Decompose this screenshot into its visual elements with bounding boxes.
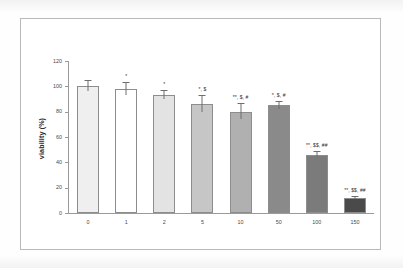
y-axis-tick-label: 40 (56, 158, 62, 166)
y-axis-tick: 120 (36, 61, 68, 62)
significance-annotation: *, $, # (272, 92, 286, 98)
figure-root: viability (%) 020406080100120 ***, $**, … (0, 0, 403, 268)
y-axis-tick-mark (65, 188, 68, 189)
significance-annotation: * (125, 73, 127, 79)
y-axis-tick-label: 20 (56, 183, 62, 191)
x-axis-tick-label: 2 (145, 219, 183, 225)
bar-slot (77, 61, 99, 213)
y-axis-tick-label: 0 (59, 209, 62, 217)
y-axis-tick-mark (65, 162, 68, 163)
y-axis-tick-mark (65, 137, 68, 138)
bar-slot: * (115, 61, 137, 213)
scan-edge-top (0, 0, 403, 12)
bar-slot: **, $$, ## (306, 61, 328, 213)
error-bar-cap-top (123, 82, 130, 83)
significance-annotation: **, $, # (233, 94, 249, 100)
bar (268, 105, 290, 213)
x-axis-tick-label: 5 (183, 219, 221, 225)
error-bar (202, 96, 203, 111)
y-axis-tick-label: 60 (56, 133, 62, 141)
significance-annotation: * (163, 81, 165, 87)
bar-slot: **, $, # (230, 61, 252, 213)
bar-slot: **, $$, ## (344, 61, 366, 213)
y-axis-tick: 60 (36, 137, 68, 138)
bar-slot: *, $, # (268, 61, 290, 213)
y-axis-tick: 40 (36, 162, 68, 163)
y-axis-title-label: viability (%) (38, 117, 47, 158)
error-bar (240, 104, 241, 119)
y-axis-tick-mark (65, 112, 68, 113)
significance-annotation: **, $$, ## (344, 187, 366, 193)
x-axis-tick-label: 150 (336, 219, 374, 225)
error-bar (354, 197, 355, 200)
y-axis-tick: 20 (36, 188, 68, 189)
x-axis-line (68, 213, 374, 214)
scan-edge-bottom (0, 256, 403, 268)
y-axis-tick-mark (65, 86, 68, 87)
error-bar-cap-top (199, 95, 206, 96)
bar (77, 86, 99, 213)
bar-slot: * (153, 61, 175, 213)
bar (344, 198, 366, 213)
chart-plot-area: viability (%) 020406080100120 ***, $**, … (36, 55, 380, 231)
x-axis-tick-label: 100 (298, 219, 336, 225)
error-bar-cap-top (161, 90, 168, 91)
error-bar (316, 152, 317, 157)
y-axis-tick: 100 (36, 86, 68, 87)
error-bar (126, 83, 127, 96)
y-axis-title: viability (%) (34, 83, 50, 193)
error-bar-cap-top (85, 80, 92, 81)
bar (230, 112, 252, 213)
bar (115, 89, 137, 213)
x-axis-tick-label: 50 (260, 219, 298, 225)
x-axis-tick-label: 0 (69, 219, 107, 225)
error-bar (88, 81, 89, 91)
error-bar-cap-top (351, 196, 358, 197)
y-axis-tick-mark (65, 213, 68, 214)
error-bar-cap-top (313, 151, 320, 152)
y-axis-tick: 80 (36, 112, 68, 113)
y-axis-tick-label: 100 (53, 82, 62, 90)
significance-annotation: **, $$, ## (306, 142, 328, 148)
x-axis-tick-label: 10 (222, 219, 260, 225)
bar-slot: *, $ (191, 61, 213, 213)
x-axis-tick-label: 1 (107, 219, 145, 225)
significance-annotation: *, $ (198, 86, 206, 92)
error-bar (278, 102, 279, 110)
error-bar-cap-top (275, 101, 282, 102)
bar (306, 155, 328, 213)
error-bar (164, 91, 165, 99)
y-axis-tick-label: 120 (53, 57, 62, 65)
bar (153, 95, 175, 213)
y-axis-tick-label: 80 (56, 107, 62, 115)
y-axis-tick: 0 (36, 213, 68, 214)
bar-group: ***, $**, $, #*, $, #**, $$, ##**, $$, #… (69, 61, 374, 213)
y-axis-tick-mark (65, 61, 68, 62)
bar (191, 104, 213, 213)
error-bar-cap-top (237, 103, 244, 104)
